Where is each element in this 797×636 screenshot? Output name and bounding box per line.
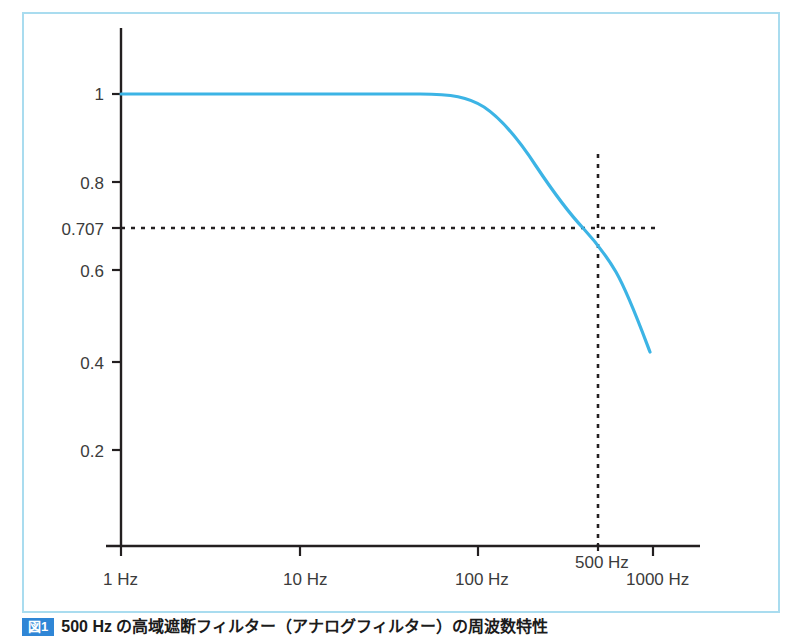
figure-caption: 図1500 Hz の高域遮断フィルター（アナログフィルター）の周波数特性	[22, 618, 780, 636]
x-tick-label-1000hz: 1000 Hz	[626, 570, 689, 589]
frequency-response-curve	[121, 94, 650, 352]
figure-root: 1 0.8 0.707 0.6 0.4 0.2 1 Hz 10 Hz 100 H…	[0, 0, 797, 636]
x-tick-label-10hz: 10 Hz	[283, 570, 327, 589]
y-tick-label-0-2: 0.2	[80, 442, 104, 461]
y-tick-label-1: 1	[95, 85, 104, 104]
y-tick-label-0-4: 0.4	[80, 354, 104, 373]
y-tick-marks	[112, 94, 121, 450]
cutoff-frequency-label: 500 Hz	[575, 553, 629, 572]
y-tick-label-0-8: 0.8	[80, 174, 104, 193]
caption-badge: 図1	[22, 618, 54, 636]
y-tick-label-0-707: 0.707	[61, 220, 104, 239]
frequency-response-chart: 1 0.8 0.707 0.6 0.4 0.2 1 Hz 10 Hz 100 H…	[0, 0, 797, 636]
caption-text: 500 Hz の高域遮断フィルター（アナログフィルター）の周波数特性	[61, 618, 548, 636]
y-tick-label-0-6: 0.6	[80, 262, 104, 281]
x-tick-label-1hz: 1 Hz	[103, 570, 138, 589]
x-tick-label-100hz: 100 Hz	[455, 570, 509, 589]
